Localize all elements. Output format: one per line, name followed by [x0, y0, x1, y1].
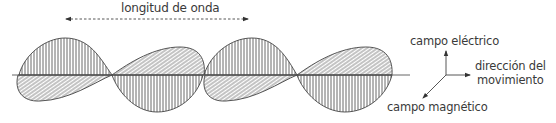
magnetic-lobe-1: [17, 75, 112, 101]
magnetic-lobe-4: [297, 47, 392, 75]
direction-label-line1: dirección del: [475, 60, 546, 73]
magnetic-lobe-2: [112, 47, 204, 75]
direction-label-line2: movimiento: [477, 74, 544, 87]
magnetic-lobe-3: [204, 75, 297, 101]
electric-lobe-3: [204, 38, 297, 75]
magnetic-axis-arrow: [423, 75, 446, 98]
electric-lobe-1: [19, 38, 112, 75]
electric-lobe-4: [297, 75, 392, 112]
electric-field-label: campo eléctrico: [410, 35, 499, 48]
electric-lobe-2: [112, 75, 203, 112]
wavelength-label: longitud de onda: [121, 2, 220, 15]
magnetic-field-label: campo magnético: [387, 101, 488, 114]
field-axes: [423, 51, 470, 98]
